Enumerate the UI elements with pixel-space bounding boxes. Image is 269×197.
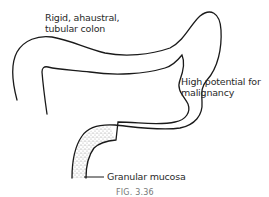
rigid-colon-label-line1: Rigid, ahaustral, [45, 12, 119, 23]
malignancy-label-line1: High potential for [181, 76, 261, 87]
malignancy-label: High potential for malignancy [181, 76, 261, 98]
rigid-colon-label: Rigid, ahaustral, tubular colon [45, 12, 119, 34]
malignancy-label-line2: malignancy [181, 87, 261, 98]
figure-caption: FIG. 3.36 [116, 188, 154, 197]
granular-mucosa-label: Granular mucosa [107, 171, 186, 182]
rigid-colon-label-line2: tubular colon [45, 23, 119, 34]
colon-diagram [0, 0, 269, 197]
colon-inner-wall [42, 55, 189, 178]
